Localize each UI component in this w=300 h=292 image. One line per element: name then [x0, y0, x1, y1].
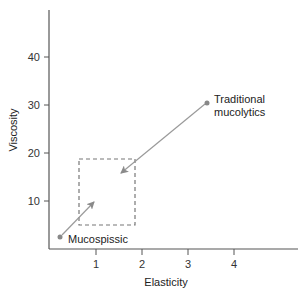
y-tick-label-20: 20 — [28, 147, 40, 159]
traditional-arrow — [121, 104, 205, 173]
mucospissic-arrow — [62, 202, 94, 235]
traditional-point — [205, 101, 210, 106]
y-tick-label-40: 40 — [28, 51, 40, 63]
traditional-label-line1: Traditional — [214, 93, 265, 105]
x-tick-label-2: 2 — [139, 258, 145, 270]
x-tick-label-1: 1 — [93, 258, 99, 270]
x-tick-label-3: 3 — [185, 258, 191, 270]
y-tick-label-10: 10 — [28, 195, 40, 207]
chart: 40 30 20 10 1 2 3 4 Elasticity Viscosity… — [0, 0, 300, 292]
x-axis-title: Elasticity — [144, 276, 188, 288]
x-tick-label-4: 4 — [231, 258, 237, 270]
y-axis-title: Viscosity — [7, 108, 19, 152]
mucospissic-label: Mucospissic — [68, 233, 128, 245]
mucospissic-point — [58, 235, 63, 240]
traditional-label-line2: mucolytics — [214, 106, 266, 118]
y-tick-label-30: 30 — [28, 99, 40, 111]
